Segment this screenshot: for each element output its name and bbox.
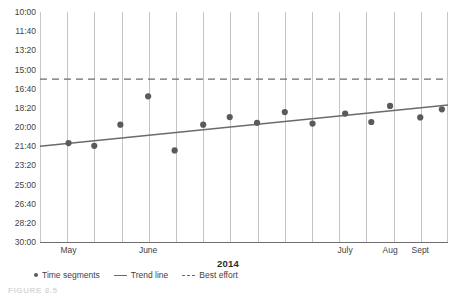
data-point[interactable] (368, 119, 374, 125)
figure-container: 10:0011:4013:2015:0016:4018:2020:0021:40… (0, 0, 456, 296)
data-point[interactable] (200, 122, 206, 128)
dot-marker-icon (34, 273, 38, 277)
x-axis-title: 2014 (0, 258, 456, 269)
x-axis-tick-label: Sept (412, 245, 430, 256)
chart-legend: Time segments Trend line Best effort (34, 270, 238, 280)
data-point[interactable] (254, 120, 260, 126)
data-point[interactable] (439, 106, 445, 112)
y-axis-tick-label: 10:00 (0, 8, 36, 17)
x-axis-line (40, 242, 448, 243)
trend-line (40, 105, 448, 146)
data-point[interactable] (91, 143, 97, 149)
legend-item-time-segments[interactable]: Time segments (34, 270, 100, 280)
data-point[interactable] (387, 103, 393, 109)
data-point[interactable] (342, 110, 348, 116)
data-point[interactable] (117, 122, 123, 128)
y-axis-tick-label: 26:40 (0, 199, 36, 208)
y-axis-tick-label: 21:40 (0, 142, 36, 151)
solid-line-marker-icon (114, 275, 127, 276)
legend-label-time-segments: Time segments (42, 270, 100, 280)
legend-label-trend-line: Trend line (131, 270, 168, 280)
data-point[interactable] (65, 140, 71, 146)
y-axis-tick-label: 30:00 (0, 238, 36, 247)
y-axis-tick-label: 16:40 (0, 84, 36, 93)
data-point[interactable] (172, 147, 178, 153)
x-axis-tick-label: May (61, 245, 77, 256)
y-axis-tick-label: 15:00 (0, 65, 36, 74)
y-axis-tick-label: 28:20 (0, 218, 36, 227)
legend-label-best-effort: Best effort (199, 270, 238, 280)
y-axis-tick-label: 11:40 (0, 27, 36, 36)
data-point[interactable] (417, 114, 423, 120)
x-axis-tick-label: Aug (383, 245, 398, 256)
dashed-line-marker-icon (182, 275, 195, 276)
y-axis-tick-labels: 10:0011:4013:2015:0016:4018:2020:0021:40… (0, 12, 36, 242)
y-axis-tick-label: 20:00 (0, 123, 36, 132)
data-point[interactable] (145, 93, 151, 99)
data-point[interactable] (282, 109, 288, 115)
data-point[interactable] (227, 114, 233, 120)
y-axis-tick-label: 25:00 (0, 180, 36, 189)
y-axis-tick-label: 13:20 (0, 46, 36, 55)
y-axis-tick-label: 23:20 (0, 161, 36, 170)
figure-caption: FIGURE 8.5 (8, 286, 58, 295)
x-axis-tick-label: June (139, 245, 157, 256)
legend-item-trend-line[interactable]: Trend line (114, 270, 168, 280)
legend-item-best-effort[interactable]: Best effort (182, 270, 238, 280)
x-axis-tick-label: July (338, 245, 353, 256)
data-point[interactable] (309, 120, 315, 126)
chart-series-layer (40, 12, 448, 242)
x-axis-tick-labels: MayJuneJulyAugSept (40, 245, 448, 259)
y-axis-tick-label: 18:20 (0, 103, 36, 112)
